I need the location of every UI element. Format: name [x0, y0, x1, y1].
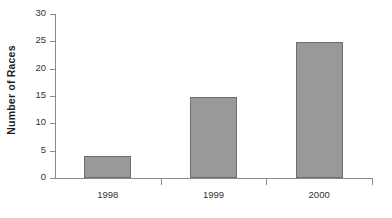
y-axis-tick: 20 [0, 69, 55, 70]
y-axis-tick: 25 [0, 41, 55, 42]
x-axis-label-1998: 1998 [55, 189, 161, 200]
y-axis-tick-label: 10 [35, 116, 46, 127]
x-axis-label-1999: 1999 [161, 189, 267, 200]
y-axis-tick: 15 [0, 96, 55, 97]
x-axis-boundary-tick [266, 179, 267, 185]
y-axis-tick: 0 [0, 178, 55, 179]
y-axis-tick-label: 15 [35, 89, 46, 100]
y-axis-title-label: Number of Races [5, 45, 17, 134]
y-axis-tick-label: 20 [35, 62, 46, 73]
x-axis-boundary-tick [372, 179, 373, 185]
y-axis-tick-mark [50, 178, 55, 179]
bar-1998 [84, 156, 131, 178]
y-axis-tick-label: 5 [41, 144, 46, 155]
y-axis-tick: 5 [0, 151, 55, 152]
y-axis-tick: 30 [0, 14, 55, 15]
x-axis-label-2000: 2000 [266, 189, 372, 200]
x-axis-line [55, 178, 373, 179]
bar-2000 [296, 42, 343, 178]
y-axis-tick-label: 0 [41, 171, 46, 182]
bar-1999 [190, 97, 237, 178]
y-axis-tick-label: 25 [35, 34, 46, 45]
plot-area [55, 14, 372, 178]
y-axis-tick-label: 30 [35, 7, 46, 18]
y-axis-tick: 10 [0, 123, 55, 124]
x-axis-boundary-tick [161, 179, 162, 185]
bar-chart-figure: Number of Races 051015202530 19981999200… [0, 0, 392, 218]
y-axis-title: Number of Races [0, 0, 22, 180]
